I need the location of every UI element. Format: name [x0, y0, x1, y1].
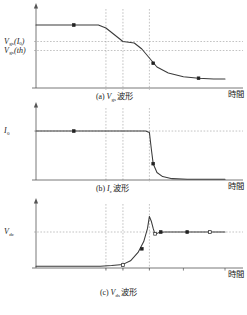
- marker-filled-square: [140, 247, 143, 250]
- series-Ic: [36, 131, 225, 179]
- caption-c: (c) Vds波形: [100, 287, 137, 298]
- marker-open-square: [122, 264, 125, 267]
- marker-filled-square: [72, 24, 75, 27]
- y-axis-arrow: [34, 3, 38, 8]
- ylabel-Vgs(th): Vgs(th): [4, 46, 26, 56]
- marker-filled-square: [152, 162, 155, 165]
- marker-open-square: [154, 232, 157, 235]
- marker-filled-square: [159, 231, 162, 234]
- waveform-svg: Vgs(I0)Vgs(th)時間(a) Vgs波形I0時間(b) Ic波形Vdc…: [0, 0, 247, 315]
- caption-b: (b) Ic波形: [96, 183, 129, 194]
- ylabel-I0: I0: [3, 126, 10, 136]
- y-axis-arrow: [34, 198, 38, 203]
- series-Vds: [36, 216, 225, 266]
- ylabel-Vdc: Vdc: [4, 227, 15, 237]
- marker-filled-square: [186, 231, 189, 234]
- waveform-figure: Vgs(I0)Vgs(th)時間(a) Vgs波形I0時間(b) Ic波形Vdc…: [0, 0, 247, 315]
- time-axis-label-b: 時間: [228, 182, 244, 191]
- time-axis-label-a: 時間: [228, 90, 244, 99]
- y-axis-arrow: [34, 102, 38, 107]
- marker-filled-square: [152, 62, 155, 65]
- caption-a: (a) Vgs波形: [96, 91, 133, 102]
- time-axis-label-c: 時間: [228, 270, 244, 279]
- marker-open-square: [209, 231, 212, 234]
- marker-filled-square: [72, 130, 75, 133]
- marker-filled-square: [197, 77, 200, 80]
- series-Vgs: [36, 25, 225, 79]
